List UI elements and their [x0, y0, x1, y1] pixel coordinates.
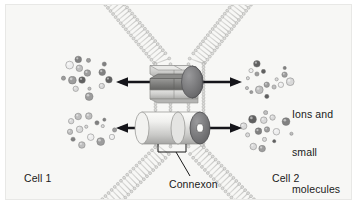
ions-label-line1: Ions and	[292, 108, 340, 121]
upper-connexon-cap	[182, 66, 204, 98]
connexon-leader	[176, 152, 190, 176]
cluster-cell2-upper	[245, 61, 294, 99]
connexon-pore	[197, 124, 204, 132]
connexon-bracket	[158, 144, 186, 152]
ions-and-small-molecules-label: Ions and small molecules	[292, 83, 340, 212]
lower-connexon-cap	[190, 112, 210, 144]
ions-label-line2: small	[292, 146, 340, 159]
connexon-label: Connexon	[169, 178, 218, 191]
ions-label-line3: molecules	[292, 183, 340, 196]
cluster-cell1-upper	[61, 56, 112, 100]
membrane-cell1	[96, 0, 172, 211]
gap-junction-figure: Cell 1 Cell 2 Connexon Ions and small mo…	[0, 0, 358, 212]
cluster-cell2-lower	[240, 110, 293, 151]
cell1-label: Cell 1	[24, 172, 51, 185]
cluster-cell1-lower	[67, 113, 116, 149]
upper-connexon	[150, 66, 203, 104]
